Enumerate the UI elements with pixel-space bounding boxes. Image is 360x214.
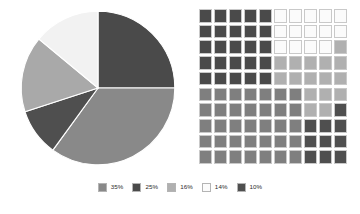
legend-item[interactable]: 10% <box>237 183 263 192</box>
waffle-cell <box>244 56 257 70</box>
waffle-cell <box>244 135 257 149</box>
waffle-cell <box>304 9 317 23</box>
waffle-cell <box>229 56 242 70</box>
waffle-chart <box>199 9 347 164</box>
waffle-cell <box>229 135 242 149</box>
legend-item-label: 14% <box>215 184 228 190</box>
legend-swatch-icon <box>167 183 176 192</box>
legend-swatch-icon <box>202 183 211 192</box>
waffle-cell <box>334 25 347 39</box>
waffle-cell <box>334 56 347 70</box>
waffle-cell <box>319 103 332 117</box>
waffle-cell <box>244 103 257 117</box>
waffle-cell <box>259 135 272 149</box>
waffle-cell <box>304 103 317 117</box>
legend-item[interactable]: 25% <box>132 183 158 192</box>
waffle-cell <box>199 135 212 149</box>
waffle-cell <box>259 119 272 133</box>
waffle-cell <box>289 150 302 164</box>
waffle-cell <box>229 88 242 102</box>
waffle-cell <box>259 72 272 86</box>
waffle-cell <box>259 150 272 164</box>
waffle-cell <box>199 103 212 117</box>
chart-legend: 35%25%16%14%10% <box>0 183 360 192</box>
waffle-cell <box>274 25 287 39</box>
legend-swatch-icon <box>98 183 107 192</box>
waffle-cell <box>229 25 242 39</box>
waffle-cell <box>274 135 287 149</box>
waffle-cell <box>229 103 242 117</box>
waffle-cell <box>304 56 317 70</box>
waffle-cell <box>199 40 212 54</box>
waffle-cell <box>289 88 302 102</box>
waffle-cell <box>274 72 287 86</box>
waffle-cell <box>199 119 212 133</box>
waffle-cell <box>244 119 257 133</box>
waffle-cell <box>229 72 242 86</box>
pie-slice-25pct[interactable] <box>98 11 175 88</box>
waffle-cell <box>259 56 272 70</box>
waffle-cell <box>274 88 287 102</box>
waffle-cell <box>214 150 227 164</box>
pie-slice-group <box>21 11 175 165</box>
legend-item[interactable]: 16% <box>167 183 193 192</box>
waffle-cell <box>319 56 332 70</box>
waffle-cell <box>214 103 227 117</box>
waffle-cell <box>244 40 257 54</box>
waffle-cell <box>304 88 317 102</box>
waffle-cell <box>229 150 242 164</box>
waffle-cell <box>334 150 347 164</box>
waffle-cell <box>289 40 302 54</box>
waffle-cell <box>289 119 302 133</box>
legend-swatch-icon <box>132 183 141 192</box>
waffle-cell <box>304 25 317 39</box>
waffle-cell <box>214 119 227 133</box>
waffle-cell <box>274 103 287 117</box>
waffle-cell <box>334 9 347 23</box>
waffle-cell <box>289 56 302 70</box>
waffle-cell <box>214 56 227 70</box>
waffle-cell <box>289 25 302 39</box>
waffle-cell <box>274 40 287 54</box>
waffle-cell <box>304 135 317 149</box>
waffle-cell <box>319 72 332 86</box>
waffle-cell <box>214 135 227 149</box>
waffle-cell <box>289 72 302 86</box>
waffle-cell <box>214 72 227 86</box>
waffle-cell <box>334 72 347 86</box>
waffle-cell <box>199 25 212 39</box>
waffle-cell <box>334 135 347 149</box>
waffle-cell <box>274 119 287 133</box>
waffle-cell <box>244 150 257 164</box>
waffle-cell <box>244 9 257 23</box>
waffle-cell <box>289 135 302 149</box>
waffle-cell <box>259 25 272 39</box>
waffle-cell <box>214 9 227 23</box>
legend-item[interactable]: 14% <box>202 183 228 192</box>
waffle-cell <box>229 40 242 54</box>
waffle-cell <box>334 119 347 133</box>
waffle-cell <box>259 9 272 23</box>
waffle-grid <box>199 9 347 164</box>
waffle-cell <box>304 119 317 133</box>
waffle-cell <box>334 103 347 117</box>
pie-chart-svg <box>18 8 178 168</box>
legend-item-label: 10% <box>250 184 263 190</box>
waffle-cell <box>274 150 287 164</box>
waffle-cell <box>319 9 332 23</box>
waffle-cell <box>274 9 287 23</box>
waffle-cell <box>199 9 212 23</box>
waffle-cell <box>319 40 332 54</box>
pie-chart <box>18 8 178 168</box>
waffle-cell <box>319 135 332 149</box>
waffle-cell <box>259 40 272 54</box>
waffle-cell <box>244 72 257 86</box>
waffle-cell <box>244 88 257 102</box>
waffle-cell <box>199 56 212 70</box>
waffle-cell <box>319 25 332 39</box>
waffle-cell <box>319 119 332 133</box>
waffle-cell <box>289 103 302 117</box>
waffle-cell <box>259 103 272 117</box>
waffle-cell <box>244 25 257 39</box>
legend-item[interactable]: 35% <box>98 183 124 192</box>
